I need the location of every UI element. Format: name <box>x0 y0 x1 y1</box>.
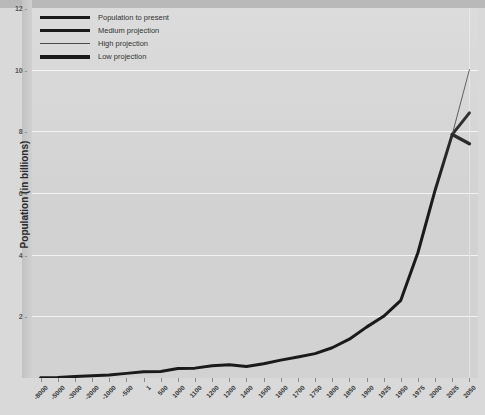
y-axis-tick-label: 4 - <box>19 251 27 258</box>
x-axis-tick <box>315 378 316 382</box>
legend-item-low-projection: Low projection <box>40 51 169 62</box>
x-axis-tick <box>435 378 436 382</box>
x-axis-tick-label: 1800 <box>325 384 340 399</box>
x-axis-tick-label: -1000 <box>100 384 117 401</box>
x-axis-tick-label: 1000 <box>171 384 186 399</box>
x-axis-tick-label: 1400 <box>239 384 254 399</box>
x-axis-tick <box>264 378 265 382</box>
x-axis: -8000-5000-3000-2000-1000-50015001000110… <box>32 378 478 415</box>
y-axis-tick-label: 2 - <box>19 313 27 320</box>
x-axis-tick-label: 1925 <box>376 384 391 399</box>
x-axis-tick-label: 1100 <box>188 384 203 399</box>
y-axis-tick-label: 8 - <box>19 128 27 135</box>
y-axis-tick-label: 12 - <box>15 5 27 12</box>
x-axis-tick-label: -5000 <box>49 384 66 401</box>
legend-label-population-to-present: Population to present <box>98 13 169 22</box>
x-axis-tick-label: 1300 <box>222 384 237 399</box>
x-axis-tick-label: 1200 <box>205 384 220 399</box>
x-axis-tick-label: 1900 <box>359 384 374 399</box>
x-axis-tick <box>367 378 368 382</box>
x-axis-tick <box>195 378 196 382</box>
x-axis-tick-label: 1700 <box>291 384 306 399</box>
legend-item-high-projection: High projection <box>40 38 169 49</box>
x-axis-tick <box>469 378 470 382</box>
x-axis-tick-label: 500 <box>156 384 169 397</box>
y-axis: Population (in billions) 2 -4 -6 -8 -10 … <box>0 0 32 378</box>
legend-swatch-medium-projection <box>40 29 90 32</box>
legend-label-low-projection: Low projection <box>98 52 146 61</box>
x-axis-tick-label: -8000 <box>32 384 49 401</box>
x-axis-tick <box>298 378 299 382</box>
x-axis-tick <box>229 378 230 382</box>
x-axis-tick <box>332 378 333 382</box>
legend-label-medium-projection: Medium projection <box>98 26 159 35</box>
top-band <box>0 0 485 8</box>
population-line-chart: Population (in billions) 2 -4 -6 -8 -10 … <box>0 0 485 415</box>
x-axis-tick <box>161 378 162 382</box>
x-axis-tick-label: 1950 <box>394 384 409 399</box>
y-axis-tick-label: 10 - <box>15 66 27 73</box>
x-axis-tick <box>212 378 213 382</box>
x-axis-tick <box>418 378 419 382</box>
legend-label-high-projection: High projection <box>98 39 148 48</box>
x-axis-tick-label: 2000 <box>428 384 443 399</box>
x-axis-tick-label: -500 <box>120 384 134 398</box>
x-axis-tick-label: 1975 <box>411 384 426 399</box>
x-axis-tick <box>246 378 247 382</box>
x-axis-tick <box>126 378 127 382</box>
x-axis-tick <box>58 378 59 382</box>
x-axis-tick-label: 1750 <box>308 384 323 399</box>
legend-swatch-population-to-present <box>40 16 90 19</box>
x-axis-tick-label: 2025 <box>445 384 460 399</box>
x-axis-tick-label: 1 <box>144 384 152 392</box>
x-axis-tick <box>41 378 42 382</box>
x-axis-tick <box>384 378 385 382</box>
x-axis-tick <box>92 378 93 382</box>
x-axis-tick <box>178 378 179 382</box>
x-axis-tick <box>144 378 145 382</box>
chart-legend: Population to present Medium projection … <box>40 12 169 64</box>
x-axis-tick-label: -2000 <box>83 384 100 401</box>
x-axis-tick <box>401 378 402 382</box>
legend-item-population-to-present: Population to present <box>40 12 169 23</box>
x-axis-tick-label: 1500 <box>256 384 271 399</box>
x-axis-tick-label: 2050 <box>462 384 477 399</box>
series-line <box>41 134 453 377</box>
x-axis-tick-label: 1600 <box>273 384 288 399</box>
x-axis-tick <box>452 378 453 382</box>
x-axis-tick <box>281 378 282 382</box>
series-line <box>452 134 469 143</box>
x-axis-tick <box>75 378 76 382</box>
y-axis-tick-label: 6 - <box>19 190 27 197</box>
legend-swatch-high-projection <box>40 43 90 44</box>
x-axis-tick-label: -3000 <box>66 384 83 401</box>
x-axis-tick <box>349 378 350 382</box>
x-axis-tick-label: 1850 <box>342 384 357 399</box>
x-axis-tick <box>109 378 110 382</box>
legend-item-medium-projection: Medium projection <box>40 25 169 36</box>
legend-swatch-low-projection <box>40 55 90 59</box>
